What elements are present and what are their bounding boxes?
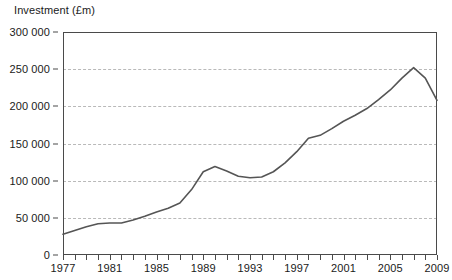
x-tick-mark	[250, 255, 251, 260]
x-tick-mark	[63, 255, 64, 260]
x-tick-label: 1981	[97, 262, 122, 274]
x-tick-mark	[121, 255, 122, 260]
y-tick-mark	[53, 217, 58, 218]
x-axis-labels: 197719811985198919931997200120052009	[0, 262, 452, 280]
y-tick-label: 250 000	[10, 63, 50, 75]
x-tick-mark	[320, 255, 321, 260]
y-tick-label: 50 000	[16, 212, 50, 224]
x-tick-mark	[238, 255, 239, 260]
x-tick-mark	[390, 255, 391, 260]
plot-area	[63, 32, 437, 255]
x-tick-mark	[285, 255, 286, 260]
x-tick-mark	[355, 255, 356, 260]
x-tick-mark	[133, 255, 134, 260]
x-tick-mark	[379, 255, 380, 260]
x-tick-mark	[145, 255, 146, 260]
x-tick-mark	[215, 255, 216, 260]
x-tick-mark	[227, 255, 228, 260]
x-tick-mark	[425, 255, 426, 260]
y-tick-label: 200 000	[10, 100, 50, 112]
x-tick-mark	[98, 255, 99, 260]
x-tick-label: 1989	[191, 262, 216, 274]
x-tick-mark	[437, 255, 438, 260]
x-tick-label: 1993	[238, 262, 263, 274]
x-tick-mark	[332, 255, 333, 260]
x-tick-mark	[157, 255, 158, 260]
x-tick-mark	[297, 255, 298, 260]
x-tick-label: 2001	[331, 262, 356, 274]
x-tick-mark	[75, 255, 76, 260]
x-tick-mark	[180, 255, 181, 260]
x-tick-label: 1977	[51, 262, 76, 274]
x-tick-mark	[262, 255, 263, 260]
y-tick-label: 100 000	[10, 175, 50, 187]
y-tick-mark	[53, 32, 58, 33]
x-tick-mark	[192, 255, 193, 260]
x-tick-mark	[203, 255, 204, 260]
x-tick-mark	[308, 255, 309, 260]
y-tick-mark	[53, 255, 58, 256]
x-tick-label: 1985	[144, 262, 169, 274]
line-series	[63, 32, 437, 255]
x-tick-mark	[367, 255, 368, 260]
x-tick-mark	[168, 255, 169, 260]
x-axis-ticks	[63, 255, 437, 261]
x-tick-mark	[273, 255, 274, 260]
y-tick-mark	[53, 180, 58, 181]
series-line	[63, 68, 437, 235]
x-tick-mark	[402, 255, 403, 260]
x-tick-mark	[414, 255, 415, 260]
chart-title: Investment (£m)	[14, 4, 95, 16]
x-tick-mark	[110, 255, 111, 260]
y-tick-mark	[53, 143, 58, 144]
y-tick-mark	[53, 69, 58, 70]
y-tick-label: 0	[44, 249, 50, 261]
y-tick-label: 150 000	[10, 138, 50, 150]
y-axis: 050 000100 000150 000200 000250 000300 0…	[0, 32, 58, 255]
y-tick-label: 300 000	[10, 26, 50, 38]
x-tick-label: 1997	[284, 262, 309, 274]
x-tick-label: 2005	[378, 262, 403, 274]
x-tick-label: 2009	[425, 262, 450, 274]
x-tick-mark	[344, 255, 345, 260]
chart-page: Investment (£m) 050 000100 000150 000200…	[0, 0, 452, 280]
x-tick-mark	[86, 255, 87, 260]
y-tick-mark	[53, 106, 58, 107]
